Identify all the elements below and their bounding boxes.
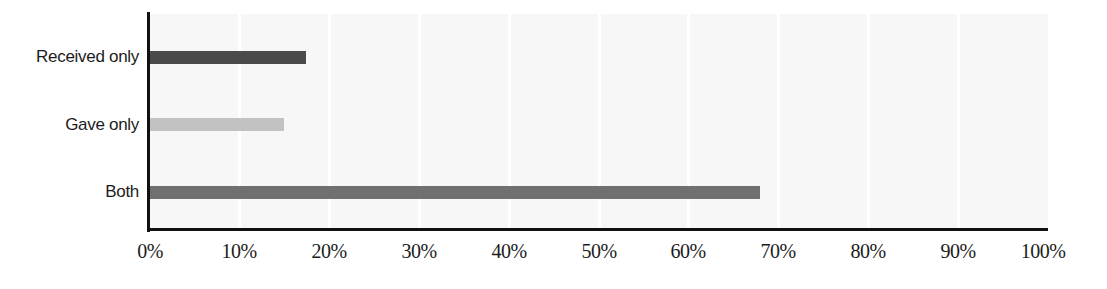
bar-both — [149, 186, 760, 199]
x-tick-30: 30% — [379, 240, 459, 262]
x-tick-90: 90% — [918, 240, 998, 262]
y-axis-label-text: Gave only — [65, 115, 139, 134]
x-tick-40: 40% — [469, 240, 549, 262]
x-tick-0: 0% — [110, 240, 190, 262]
y-axis-line — [147, 12, 150, 232]
y-axis-label-received-only: Received only — [0, 48, 139, 65]
x-tick-100: 100% — [1003, 240, 1083, 262]
plot-area — [149, 14, 1048, 229]
y-axis-label-gave-only: Gave only — [0, 116, 139, 133]
bar-received-only — [149, 51, 306, 64]
x-tick-80: 80% — [828, 240, 908, 262]
x-tick-50: 50% — [559, 240, 639, 262]
x-axis-line — [147, 228, 1048, 231]
x-tick-70: 70% — [738, 240, 818, 262]
gridline-80 — [867, 14, 870, 229]
x-tick-10: 10% — [199, 240, 279, 262]
y-axis-label-text: Received only — [36, 47, 139, 66]
gridline-90 — [957, 14, 960, 229]
x-tick-60: 60% — [648, 240, 728, 262]
x-tick-20: 20% — [289, 240, 369, 262]
bar-chart: Received only Gave only Both 0% 10% 20% … — [0, 0, 1107, 289]
bar-gave-only — [149, 118, 284, 131]
y-axis-label-both: Both — [0, 183, 139, 200]
gridline-70 — [777, 14, 780, 229]
y-axis-label-text: Both — [105, 182, 139, 201]
